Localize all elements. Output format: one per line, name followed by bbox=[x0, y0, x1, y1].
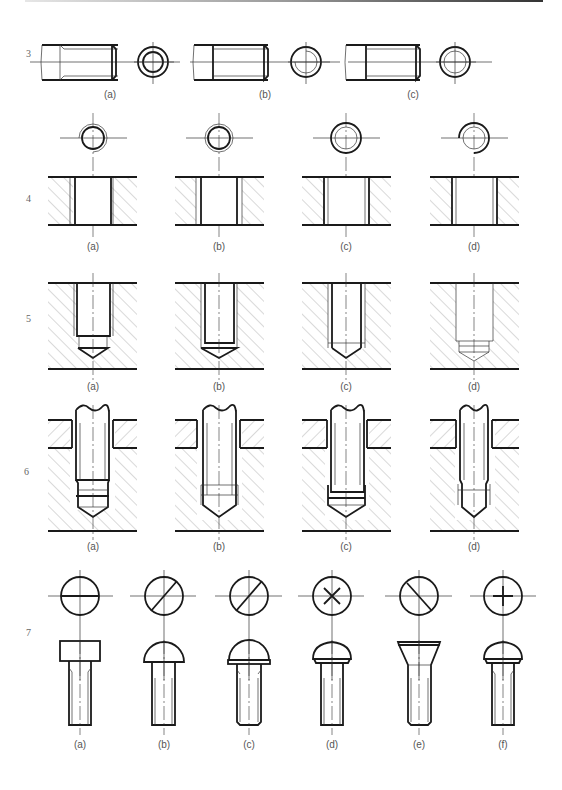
stud-assembly-c: (c) bbox=[302, 405, 391, 552]
row-number: 4 bbox=[26, 193, 31, 204]
svg-text:(a): (a) bbox=[87, 381, 99, 392]
thread-a: (a) bbox=[30, 42, 180, 100]
stud-assembly-b: (b) bbox=[175, 405, 264, 552]
svg-text:(a): (a) bbox=[87, 541, 99, 552]
svg-text:(f): (f) bbox=[498, 739, 507, 750]
screw-round-head-b: (b) bbox=[130, 570, 196, 750]
svg-text:(e): (e) bbox=[413, 739, 425, 750]
svg-text:(c): (c) bbox=[243, 739, 255, 750]
thread-b: (b) bbox=[190, 42, 340, 100]
row-number: 5 bbox=[26, 313, 31, 324]
svg-text:(a): (a) bbox=[104, 89, 116, 100]
svg-text:(a): (a) bbox=[74, 739, 86, 750]
through-hole-b: (b) bbox=[175, 113, 264, 252]
stud-assembly-a: (a) bbox=[48, 405, 137, 552]
screw-countersunk-e: (e) bbox=[385, 570, 452, 750]
technical-drawing: 3 (a) (b) bbox=[0, 0, 562, 790]
blind-hole-a: (a) bbox=[48, 273, 137, 392]
row-number: 3 bbox=[26, 48, 31, 59]
svg-text:(b): (b) bbox=[213, 381, 225, 392]
svg-text:(b): (b) bbox=[213, 541, 225, 552]
thread-c: (c) bbox=[345, 42, 492, 100]
row-4: 4 (a) (b) bbox=[26, 113, 519, 252]
screw-cross-recessed-d: (d) bbox=[298, 570, 364, 750]
svg-text:(b): (b) bbox=[259, 89, 271, 100]
svg-text:(a): (a) bbox=[87, 241, 99, 252]
row-number: 6 bbox=[24, 466, 29, 477]
blind-hole-c: (c) bbox=[302, 273, 391, 392]
svg-text:(b): (b) bbox=[213, 241, 225, 252]
svg-text:(c): (c) bbox=[407, 89, 419, 100]
svg-text:(c): (c) bbox=[340, 541, 352, 552]
row-7: 7 (a) (b) bbox=[26, 570, 536, 750]
through-hole-c: (c) bbox=[302, 113, 391, 252]
svg-text:(d): (d) bbox=[326, 739, 338, 750]
through-hole-a: (a) bbox=[48, 113, 137, 252]
screw-slotted-cheese-a: (a) bbox=[48, 570, 113, 750]
row-number: 7 bbox=[26, 627, 31, 638]
svg-text:(b): (b) bbox=[158, 739, 170, 750]
screw-round-head-c: (c) bbox=[215, 570, 282, 750]
through-hole-d: (d) bbox=[430, 113, 519, 252]
svg-text:(d): (d) bbox=[468, 381, 480, 392]
svg-text:(c): (c) bbox=[340, 241, 352, 252]
svg-text:(d): (d) bbox=[468, 541, 480, 552]
svg-text:(d): (d) bbox=[468, 241, 480, 252]
stud-assembly-d: (d) bbox=[430, 405, 519, 552]
svg-text:(c): (c) bbox=[340, 381, 352, 392]
blind-hole-d: (d) bbox=[430, 273, 519, 392]
row-5: 5 (a) (b) (c) bbox=[26, 273, 519, 392]
screw-phillips-f: (f) bbox=[470, 570, 536, 750]
row-6: 6 (a) (b) bbox=[24, 405, 519, 552]
blind-hole-b: (b) bbox=[175, 273, 264, 392]
row-3: 3 (a) (b) bbox=[26, 42, 492, 100]
